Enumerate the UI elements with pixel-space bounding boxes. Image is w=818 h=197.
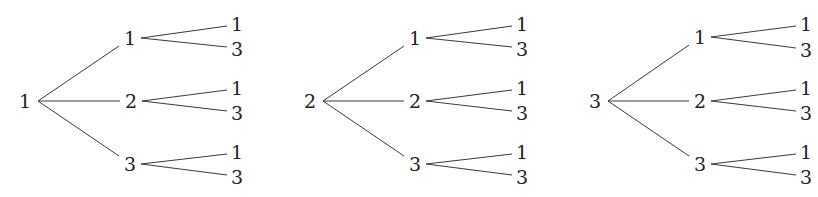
branch-node: 1 bbox=[124, 29, 136, 48]
branch-node: 2 bbox=[125, 92, 137, 111]
leaf-node: 1 bbox=[516, 15, 528, 34]
branch-to-leaf-edge bbox=[426, 154, 512, 164]
branch-to-leaf-edge bbox=[426, 164, 512, 175]
branch-to-leaf-edge bbox=[711, 90, 796, 101]
root-to-branch-edge bbox=[608, 45, 689, 101]
branch-to-leaf-edge bbox=[141, 38, 227, 47]
branch-to-leaf-edge bbox=[711, 101, 796, 111]
leaf-node: 3 bbox=[231, 168, 243, 187]
branch-node: 1 bbox=[409, 29, 421, 48]
branch-node: 3 bbox=[124, 155, 136, 174]
root-to-branch-edge bbox=[323, 101, 404, 156]
branch-to-leaf-edge bbox=[141, 164, 227, 175]
branch-node: 2 bbox=[409, 92, 421, 111]
root-to-branch-edge bbox=[38, 46, 119, 101]
leaf-node: 3 bbox=[516, 168, 528, 187]
branch-node: 3 bbox=[409, 155, 421, 174]
branch-to-leaf-edge bbox=[426, 90, 512, 101]
leaf-node: 3 bbox=[800, 41, 812, 60]
branch-to-leaf-edge bbox=[711, 154, 796, 164]
leaf-node: 3 bbox=[516, 104, 528, 123]
leaf-node: 1 bbox=[800, 79, 812, 98]
leaf-node: 3 bbox=[800, 168, 812, 187]
leaf-node: 1 bbox=[516, 143, 528, 162]
leaf-node: 1 bbox=[231, 143, 243, 162]
leaf-node: 3 bbox=[231, 104, 243, 123]
root-to-branch-edge bbox=[323, 46, 404, 101]
leaf-node: 1 bbox=[800, 143, 812, 162]
branch-to-leaf-edge bbox=[711, 164, 796, 175]
branch-to-leaf-edge bbox=[142, 90, 227, 101]
root-node: 3 bbox=[589, 92, 601, 111]
branch-node: 1 bbox=[694, 28, 706, 47]
branch-to-leaf-edge bbox=[711, 26, 796, 37]
branch-to-leaf-edge bbox=[426, 38, 512, 47]
root-to-branch-edge bbox=[38, 101, 119, 156]
branch-to-leaf-edge bbox=[141, 154, 227, 164]
branch-to-leaf-edge bbox=[426, 26, 512, 38]
root-node: 2 bbox=[304, 92, 316, 111]
tree-diagram-canvas: 111321331321132133133113213313 bbox=[0, 0, 818, 197]
leaf-node: 1 bbox=[231, 15, 243, 34]
branch-node: 3 bbox=[694, 155, 706, 174]
leaf-node: 1 bbox=[231, 79, 243, 98]
leaf-node: 3 bbox=[516, 40, 528, 59]
branch-to-leaf-edge bbox=[142, 101, 227, 111]
branch-to-leaf-edge bbox=[141, 26, 227, 38]
root-to-branch-edge bbox=[608, 101, 689, 156]
branch-to-leaf-edge bbox=[426, 101, 512, 111]
branch-to-leaf-edge bbox=[711, 37, 796, 48]
leaf-node: 1 bbox=[800, 15, 812, 34]
root-node: 1 bbox=[19, 92, 31, 111]
branch-node: 2 bbox=[694, 92, 706, 111]
leaf-node: 3 bbox=[231, 40, 243, 59]
leaf-node: 1 bbox=[516, 79, 528, 98]
leaf-node: 3 bbox=[800, 104, 812, 123]
